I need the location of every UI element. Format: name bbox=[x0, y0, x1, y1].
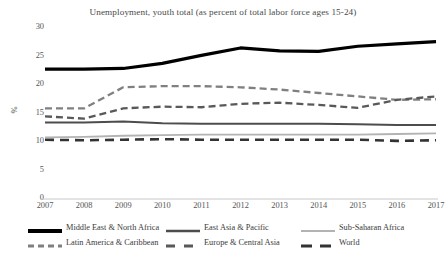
legend-swatch-icon bbox=[166, 222, 200, 232]
legend-item-latin-america-caribbean[interactable]: Latin America & Caribbean bbox=[28, 235, 158, 249]
legend-label: Europe & Central Asia bbox=[204, 238, 280, 247]
x-axis-tick-label: 2009 bbox=[103, 201, 143, 210]
legend-row-2: Latin America & Caribbean Europe & Centr… bbox=[0, 235, 446, 249]
x-axis-tick-label: 2007 bbox=[25, 201, 65, 210]
x-axis-tick-label: 2011 bbox=[181, 201, 221, 210]
legend-item-sub-saharan-africa[interactable]: Sub-Saharan Africa bbox=[301, 220, 404, 234]
legend-swatch-icon bbox=[301, 237, 335, 247]
chart-legend: Middle East & North Africa East Asia & P… bbox=[0, 219, 446, 256]
legend-label: Sub-Saharan Africa bbox=[339, 223, 404, 232]
x-axis-tick-label: 2014 bbox=[299, 201, 339, 210]
series-group bbox=[45, 42, 436, 141]
chart-plot-svg bbox=[0, 0, 446, 218]
legend-item-middle-east-north-africa[interactable]: Middle East & North Africa bbox=[28, 220, 159, 234]
chart-container: Unemployment, youth total (as percent of… bbox=[0, 0, 446, 256]
series-line-europe-central-asia bbox=[45, 96, 436, 118]
plot-area: % 051015202530 2007200820092010201120122… bbox=[0, 0, 446, 218]
x-axis-tick-label: 2017 bbox=[416, 201, 446, 210]
legend-item-east-asia-pacific[interactable]: East Asia & Pacific bbox=[166, 220, 269, 234]
series-line-middle-east-north-africa bbox=[45, 42, 436, 69]
legend-row-1: Middle East & North Africa East Asia & P… bbox=[0, 220, 446, 234]
legend-label: Latin America & Caribbean bbox=[66, 238, 158, 247]
x-axis-tick-label: 2008 bbox=[64, 201, 104, 210]
legend-label: East Asia & Pacific bbox=[204, 223, 269, 232]
legend-label: Middle East & North Africa bbox=[66, 223, 159, 232]
series-line-sub-saharan-africa bbox=[45, 133, 436, 137]
legend-swatch-icon bbox=[28, 222, 62, 232]
series-line-east-asia-pacific bbox=[45, 121, 436, 124]
legend-item-world[interactable]: World bbox=[301, 235, 360, 249]
x-axis-tick-label: 2013 bbox=[260, 201, 300, 210]
series-line-latin-america-caribbean bbox=[45, 86, 436, 108]
x-axis-tick-label: 2015 bbox=[338, 201, 378, 210]
legend-swatch-icon bbox=[166, 237, 200, 247]
x-axis-tick-label: 2012 bbox=[221, 201, 261, 210]
legend-label: World bbox=[339, 238, 360, 247]
x-axis-tick-label: 2016 bbox=[377, 201, 417, 210]
legend-item-europe-central-asia[interactable]: Europe & Central Asia bbox=[166, 235, 280, 249]
legend-swatch-icon bbox=[28, 237, 62, 247]
x-axis-tick-label: 2010 bbox=[142, 201, 182, 210]
legend-swatch-icon bbox=[301, 222, 335, 232]
series-line-world bbox=[45, 139, 436, 141]
